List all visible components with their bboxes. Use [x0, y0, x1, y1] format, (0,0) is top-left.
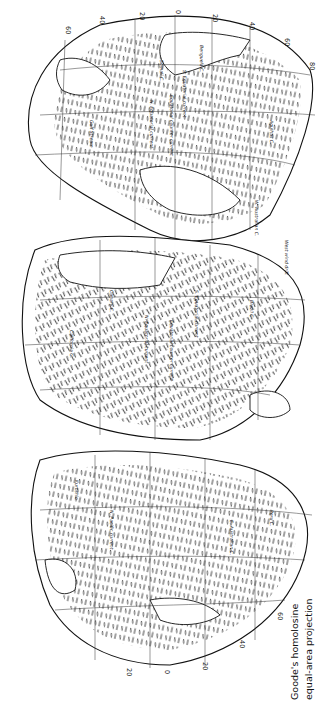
projection-caption: Goode's homolosine equal-area projection — [289, 599, 314, 700]
svg-text:N. Pacific current: N. Pacific current — [109, 510, 114, 550]
svg-text:W. Australian C.: W. Australian C. — [254, 200, 259, 236]
svg-text:60: 60 — [276, 612, 284, 620]
svg-text:S. Equatorial current: S. Equatorial current — [194, 290, 199, 338]
svg-text:0: 0 — [163, 670, 171, 674]
svg-text:Canary C.: Canary C. — [109, 290, 114, 312]
svg-text:20: 20 — [201, 662, 209, 670]
svg-text:Agulhas C.: Agulhas C. — [269, 119, 274, 145]
svg-text:40: 40 — [98, 16, 106, 24]
svg-text:80: 80 — [308, 62, 316, 70]
ocean-currents-map: 60 40 20 0 20 40 60 80 20 0 20 40 60 Ben… — [0, 0, 327, 706]
svg-text:Equatorial counter current: Equatorial counter current — [169, 320, 174, 381]
svg-text:E. Australian C.: E. Australian C. — [229, 520, 234, 555]
svg-text:0: 0 — [174, 10, 182, 14]
svg-text:Somali C.: Somali C. — [159, 60, 164, 82]
caption-line-2: equal-area projection — [303, 599, 314, 700]
svg-text:Kuroshio: Kuroshio — [74, 480, 79, 500]
indian-ocean-lobe — [22, 236, 305, 440]
svg-text:Gulf Stream: Gulf Stream — [89, 120, 94, 148]
svg-text:20: 20 — [125, 668, 133, 676]
svg-text:S. Equatorial current: S. Equatorial current — [182, 70, 187, 118]
svg-text:N. Equatorial current: N. Equatorial current — [149, 100, 154, 148]
pacific-ocean-lobe — [31, 451, 312, 668]
svg-text:40: 40 — [248, 22, 256, 30]
svg-text:60: 60 — [64, 26, 72, 34]
svg-text:20: 20 — [211, 14, 219, 22]
svg-text:20: 20 — [138, 12, 146, 20]
svg-text:West wind drift: West wind drift — [284, 240, 289, 275]
svg-text:California C.: California C. — [69, 330, 74, 358]
svg-text:Peru C.: Peru C. — [269, 510, 274, 527]
svg-text:60: 60 — [283, 38, 291, 46]
caption-line-1: Goode's homolosine — [289, 604, 300, 700]
svg-text:N. Equatorial current: N. Equatorial current — [144, 315, 149, 363]
svg-text:Brazil C.: Brazil C. — [249, 300, 254, 319]
svg-text:Benguela C.: Benguela C. — [199, 45, 204, 73]
svg-text:40: 40 — [238, 640, 246, 648]
svg-text:Equatorial counter current: Equatorial counter current — [169, 95, 174, 156]
